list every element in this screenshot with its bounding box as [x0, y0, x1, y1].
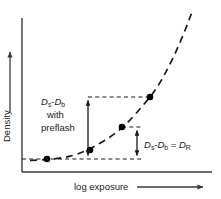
left-annotation-group: Ds-Db with preflash	[41, 96, 75, 133]
left-formula-sub2: b	[61, 101, 65, 108]
data-point-mid	[119, 124, 126, 131]
data-point-upper	[147, 94, 154, 101]
right-annotation-group: Ds-Db = DR	[144, 139, 191, 151]
x-axis-label: log exposure	[74, 181, 128, 192]
y-axis-label-group: Density	[1, 110, 12, 142]
left-annotation-line3: preflash	[41, 122, 75, 133]
y-axis-label: Density	[1, 110, 12, 142]
x-axis-label-group: log exposure	[74, 181, 128, 192]
left-annotation-formula: Ds-Db	[41, 96, 65, 108]
left-annotation-line2: with	[46, 109, 64, 120]
right-formula-sub3: R	[186, 144, 191, 151]
measure-arrows-group	[88, 101, 137, 156]
right-formula-equals: =	[168, 139, 179, 150]
plot-canvas: Density log exposure Ds-Db with preflash…	[0, 0, 221, 199]
data-point-base	[44, 156, 51, 163]
right-annotation-formula: Ds-Db = DR	[144, 139, 191, 151]
characteristic-curve-figure: Density log exposure Ds-Db with preflash…	[0, 0, 221, 199]
